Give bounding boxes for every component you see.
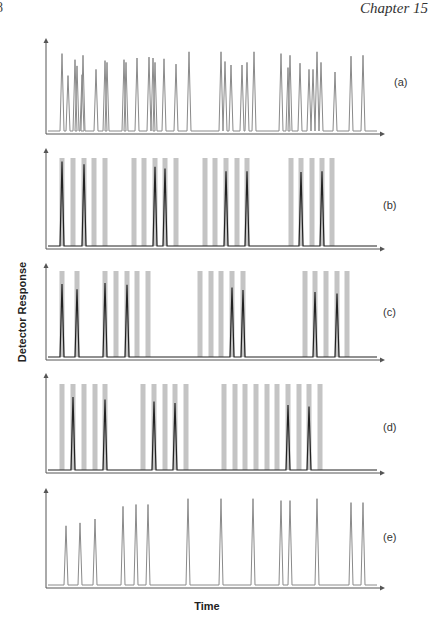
axes — [46, 267, 383, 360]
y-axis-arrow-icon — [44, 373, 49, 378]
x-axis-arrow-icon — [380, 132, 385, 137]
time-gate — [93, 384, 98, 470]
time-gate — [243, 384, 248, 470]
detector-trace — [48, 499, 377, 585]
time-gate — [198, 271, 203, 357]
time-gate — [297, 384, 302, 470]
time-gate — [303, 271, 308, 357]
time-gate — [318, 384, 323, 470]
panel-b — [44, 148, 386, 252]
panel-label-c: (c) — [383, 306, 396, 318]
panel-label-b: (b) — [383, 199, 396, 211]
time-gate — [141, 384, 146, 470]
time-gate — [174, 158, 179, 246]
panel-c — [44, 263, 386, 363]
time-gate — [345, 271, 350, 357]
time-gate — [103, 158, 108, 246]
time-gate — [132, 158, 137, 246]
y-axis-arrow-icon — [44, 38, 49, 43]
y-axis-arrow-icon — [44, 148, 49, 153]
panel-d — [44, 373, 386, 476]
time-gate — [203, 158, 208, 246]
panel-e — [44, 488, 386, 591]
panel-label-a: (a) — [394, 76, 407, 88]
panel-label-d: (d) — [383, 421, 396, 433]
time-gate — [222, 384, 227, 470]
panel-label-e: (e) — [383, 531, 396, 543]
x-axis-label: Time — [194, 600, 219, 612]
y-axis-arrow-icon — [44, 488, 49, 493]
time-gate — [71, 158, 76, 246]
time-gate — [310, 158, 315, 246]
detector-trace — [48, 52, 377, 131]
time-gate — [233, 384, 238, 470]
time-gate — [163, 384, 168, 470]
time-gate — [142, 158, 147, 246]
time-gate — [275, 384, 280, 470]
time-gate — [330, 158, 335, 246]
time-gate — [82, 384, 87, 470]
time-gate — [289, 158, 294, 246]
time-gate — [324, 271, 329, 357]
detector-response-figure — [0, 0, 434, 623]
time-gate — [209, 271, 214, 357]
x-axis-arrow-icon — [380, 586, 385, 591]
time-gate — [213, 158, 218, 246]
time-gate — [114, 271, 119, 357]
y-axis-arrow-icon — [44, 263, 49, 268]
panel-a — [44, 38, 386, 137]
y-axis-label: Detector Response — [16, 262, 28, 362]
time-gate — [146, 271, 151, 357]
time-gate — [135, 271, 140, 357]
time-gate — [184, 384, 189, 470]
x-axis-arrow-icon — [380, 471, 385, 476]
time-gate — [265, 384, 270, 470]
time-gate — [219, 271, 224, 357]
time-gate — [60, 384, 65, 470]
x-axis-arrow-icon — [380, 247, 385, 252]
x-axis-arrow-icon — [380, 358, 385, 363]
time-gate — [92, 158, 97, 246]
time-gate — [254, 384, 259, 470]
time-gate — [235, 158, 240, 246]
